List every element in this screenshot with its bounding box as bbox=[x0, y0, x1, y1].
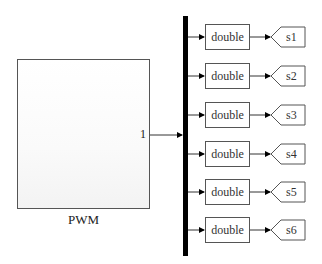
data-type-conversion-block-4[interactable]: double bbox=[205, 141, 250, 167]
goto-tag-s3[interactable]: s3 bbox=[286, 108, 297, 123]
data-type-conversion-block-6[interactable]: double bbox=[205, 217, 250, 243]
data-type-conversion-block-5[interactable]: double bbox=[205, 179, 250, 205]
data-type-conversion-block-2[interactable]: double bbox=[205, 63, 250, 89]
goto-tag-s5[interactable]: s5 bbox=[286, 185, 297, 200]
data-type-conversion-block-1[interactable]: double bbox=[205, 24, 250, 50]
goto-tag-s1[interactable]: s1 bbox=[286, 30, 297, 45]
goto-tag-s4[interactable]: s4 bbox=[286, 147, 297, 162]
pwm-block-label: PWM bbox=[17, 212, 150, 228]
data-type-conversion-block-3[interactable]: double bbox=[205, 102, 250, 128]
pwm-subsystem-block[interactable] bbox=[17, 59, 150, 209]
output-port-label: 1 bbox=[140, 127, 146, 142]
goto-tag-s2[interactable]: s2 bbox=[286, 69, 297, 84]
demux-bus-bar[interactable] bbox=[183, 16, 188, 256]
goto-tag-s6[interactable]: s6 bbox=[286, 223, 297, 238]
